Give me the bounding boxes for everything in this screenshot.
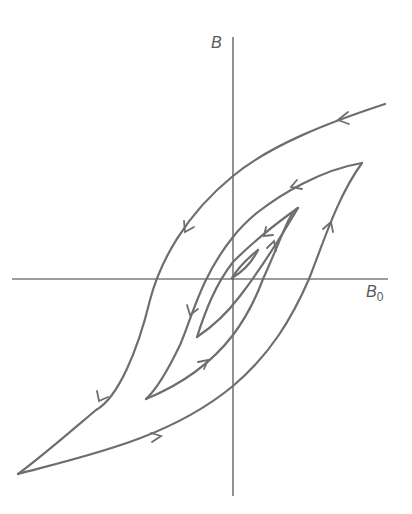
second-loop-upper-branch [146,163,362,399]
x-axis-label: B0 [366,284,383,303]
y-axis-label: B [211,35,222,51]
third-loop-lower-branch [197,208,298,337]
second-loop-lower-branch [146,208,298,399]
y-axis-label-text: B [211,34,222,51]
arrow-down-icon [97,391,108,401]
hysteresis-diagram [0,0,412,514]
innermost-loop-upper-branch [232,250,258,278]
third-loop-upper-branch [197,208,298,337]
x-axis-label-subscript: 0 [377,290,384,304]
arrow-right-icon [151,433,161,442]
x-axis-label-text: B [366,283,377,300]
